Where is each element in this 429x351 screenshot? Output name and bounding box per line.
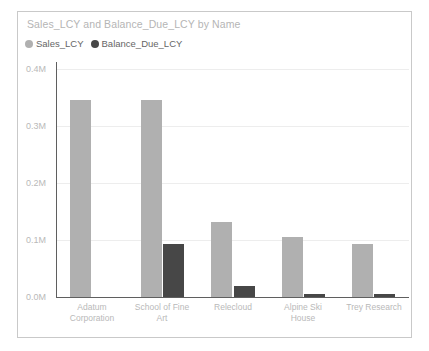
bar[interactable] (211, 222, 232, 297)
x-axis-category-label-line: Trey Research (339, 302, 409, 313)
x-axis-category-label-line: School of Fine (127, 302, 197, 313)
bar[interactable] (352, 244, 373, 297)
y-axis-tick-label: 0.4M (26, 64, 46, 74)
x-axis-category-label: Alpine SkiHouse (268, 302, 338, 324)
y-axis-tick-label: 0.3M (26, 121, 46, 131)
x-axis-category-label-line: Corporation (57, 313, 127, 324)
x-axis-category-label: Trey Research (339, 302, 409, 313)
gridline (57, 240, 409, 241)
gridline (57, 126, 409, 127)
gridline (57, 69, 409, 70)
bar[interactable] (234, 286, 255, 297)
x-axis-category-label-line: House (268, 313, 338, 324)
y-axis-line (56, 62, 57, 298)
x-axis-category-label: AdatumCorporation (57, 302, 127, 324)
y-axis-tick-label: 0.2M (26, 178, 46, 188)
bar[interactable] (282, 237, 303, 297)
y-axis-tick-label: 0.0M (26, 292, 46, 302)
x-axis-category-label-line: Adatum (57, 302, 127, 313)
chart-card[interactable]: Sales_LCY and Balance_Due_LCY by Name Sa… (17, 11, 412, 338)
x-axis-category-label-line: Alpine Ski (268, 302, 338, 313)
x-axis-category-label-line: Relecloud (198, 302, 268, 313)
plot-area: 0.0M0.1M0.2M0.3M0.4M AdatumCorporationSc… (18, 12, 413, 339)
bar[interactable] (163, 244, 184, 297)
bar[interactable] (304, 294, 325, 297)
x-axis-line (56, 297, 409, 298)
x-axis-category-label: Relecloud (198, 302, 268, 313)
bar[interactable] (141, 100, 162, 297)
bar[interactable] (70, 100, 91, 297)
x-axis-category-label-line: Art (127, 313, 197, 324)
bar[interactable] (374, 294, 395, 297)
x-axis-category-label: School of FineArt (127, 302, 197, 324)
y-axis-tick-label: 0.1M (26, 235, 46, 245)
gridline (57, 183, 409, 184)
